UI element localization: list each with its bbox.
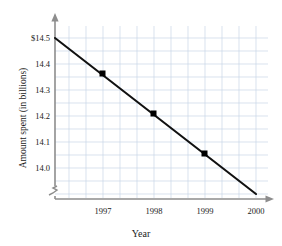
y-axis-title: Amount spent (in billions) [18,38,28,198]
x-tick-label-1998: 1998 [146,206,163,216]
line-chart: $14.5 14.4 14.3 14.2 14.1 14.0 1997 1998… [0,0,282,246]
x-tick-label-2000: 2000 [248,206,265,216]
y-tick-label-14-2: 14.2 [8,111,50,121]
y-tick-label-14-0: 14.0 [8,163,50,173]
x-tick-label-1999: 1999 [197,206,214,216]
y-tick-label-14-3: 14.3 [8,85,50,95]
y-tick-label-14-5: $14.5 [8,33,50,43]
data-point-1999 [202,151,208,157]
data-point-1997 [100,71,106,77]
x-tick-label-1997: 1997 [95,206,112,216]
x-axis-title: Year [0,228,282,239]
x-axis [55,195,274,202]
data-point-1998 [151,111,157,117]
horizontal-gridlines [55,38,268,194]
y-tick-label-14-4: 14.4 [8,59,50,69]
y-tick-label-14-1: 14.1 [8,137,50,147]
